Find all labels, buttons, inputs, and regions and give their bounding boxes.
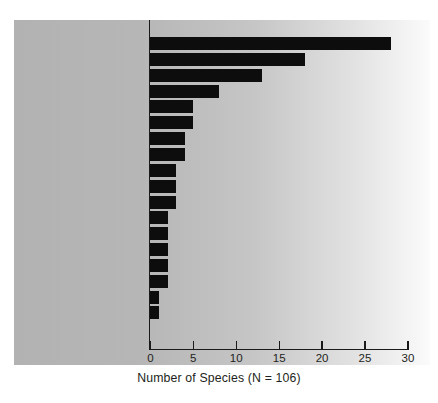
bar	[150, 132, 184, 145]
bar	[150, 100, 193, 113]
bar	[150, 227, 167, 240]
x-axis-tick-label: 10	[216, 352, 256, 364]
x-axis-title: Number of Species (N = 106)	[0, 371, 438, 385]
bar	[150, 180, 176, 193]
x-axis-tick-label: 5	[173, 352, 213, 364]
x-axis-tick-label: 0	[130, 352, 170, 364]
bar	[150, 148, 184, 161]
chart-figure: MammalsSauropodsTheropodsCrocodylomorphs…	[0, 0, 438, 403]
x-axis-tick-mark	[150, 341, 151, 349]
bar-chart-plot-area: MammalsSauropodsTheropodsCrocodylomorphs…	[0, 0, 438, 403]
bar	[150, 211, 167, 224]
bar	[150, 259, 167, 272]
x-axis-tick-label: 20	[302, 352, 342, 364]
x-axis-tick-label: 15	[259, 352, 299, 364]
bar	[150, 164, 176, 177]
bar	[150, 37, 390, 50]
bar	[150, 306, 159, 319]
bar	[150, 85, 219, 98]
bar	[150, 53, 305, 66]
bar	[150, 196, 176, 209]
bar	[150, 69, 262, 82]
x-axis-tick-label: 30	[388, 352, 428, 364]
x-axis-tick-label: 25	[345, 352, 385, 364]
x-axis-tick-mark	[236, 341, 237, 349]
bar	[150, 275, 167, 288]
x-axis-tick-mark	[321, 341, 322, 349]
x-axis-tick-mark	[193, 341, 194, 349]
bar	[150, 116, 193, 129]
bar	[150, 291, 159, 304]
x-axis-tick-mark	[279, 341, 280, 349]
bar	[150, 243, 167, 256]
x-axis-tick-mark	[364, 341, 365, 349]
x-axis-title-text: Number of Species (N = 106)	[137, 371, 301, 385]
x-axis-tick-mark	[407, 341, 408, 349]
